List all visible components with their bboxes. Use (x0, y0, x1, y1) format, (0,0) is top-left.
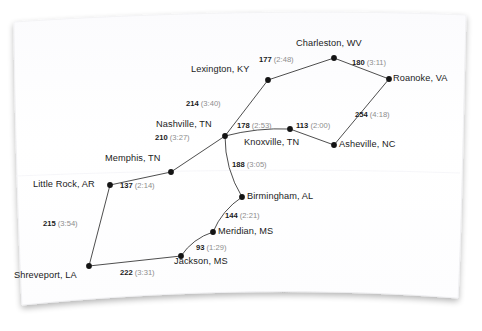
city-label-meridian: Meridian, MS (218, 226, 273, 236)
node-nashville (222, 133, 228, 139)
edge-miles: 144 (225, 211, 238, 220)
city-label-charleston: Charleston, WV (296, 38, 362, 48)
edge-time: (3:40) (201, 99, 221, 108)
edge-miles: 222 (120, 268, 133, 277)
city-label-asheville: Asheville, NC (339, 139, 395, 149)
city-label-birmingham: Birmingham, AL (247, 191, 313, 201)
edge-label-shreveport-jackson: 222 (3:31) (120, 268, 155, 277)
edge-miles: 215 (43, 219, 56, 228)
node-shreveport (86, 263, 92, 269)
edge-time: (3:27) (170, 133, 190, 142)
node-littlerock (107, 182, 113, 188)
edge-littlerock-shreveport (89, 185, 110, 266)
city-label-knoxville: Knoxville, TN (244, 137, 299, 147)
edge-label-lexington-charleston: 177 (2:48) (259, 55, 294, 64)
city-label-littlerock: Little Rock, AR (33, 179, 95, 189)
edge-miles: 210 (155, 133, 168, 142)
edge-time: (4:18) (370, 110, 390, 119)
edge-miles: 177 (259, 55, 272, 64)
city-label-jackson: Jackson, MS (174, 256, 228, 266)
edge-time: (3:31) (135, 268, 155, 277)
edge-label-littlerock-shreveport: 215 (3:54) (43, 219, 78, 228)
node-roanoke (386, 76, 392, 82)
edge-label-meridian-jackson: 93 (1:29) (196, 243, 226, 252)
edge-label-birmingham-meridian: 144 (2:21) (225, 211, 260, 220)
node-asheville (331, 142, 337, 148)
edge-time: (3:54) (58, 219, 78, 228)
edge-label-nashville-lexington: 214 (3:40) (186, 99, 221, 108)
edge-time: (2:00) (310, 121, 330, 130)
city-label-shreveport: Shreveport, LA (14, 270, 77, 280)
edge-time: (2:21) (240, 211, 260, 220)
edge-miles: 93 (196, 243, 204, 252)
edge-miles: 113 (296, 121, 308, 130)
city-label-nashville: Nashville, TN (156, 119, 212, 129)
edge-miles: 137 (120, 181, 133, 190)
edge-time: (3:05) (247, 160, 267, 169)
city-label-memphis: Memphis, TN (105, 153, 161, 163)
node-knoxville (287, 126, 293, 132)
edge-label-charleston-roanoke: 180 (3:11) (352, 58, 386, 67)
edge-label-littlerock-memphis: 137 (2:14) (120, 181, 155, 190)
node-charleston (331, 55, 337, 61)
edge-miles: 178 (237, 121, 250, 130)
edge-miles: 188 (232, 160, 245, 169)
diagram-stage: Charleston, WVRoanoke, VALexington, KYNa… (0, 0, 482, 331)
edge-label-nashville-birmingham: 188 (3:05) (232, 160, 267, 169)
edge-miles: 254 (355, 110, 368, 119)
edge-label-nashville-knoxville: 178 (2:53) (237, 121, 272, 130)
edge-miles: 214 (186, 99, 199, 108)
node-meridian (210, 229, 216, 235)
edge-time: (2:53) (252, 121, 272, 130)
edge-miles: 180 (352, 58, 365, 67)
node-memphis (168, 169, 174, 175)
edge-label-knoxville-asheville: 113 (2:00) (296, 121, 330, 130)
city-label-roanoke: Roanoke, VA (393, 73, 448, 83)
edge-time: (3:11) (367, 58, 386, 67)
edge-shreveport-jackson (89, 256, 181, 266)
edge-time: (2:14) (135, 181, 155, 190)
edge-label-roanoke-asheville: 254 (4:18) (355, 110, 390, 119)
edge-time: (1:29) (207, 243, 227, 252)
edge-time: (2:48) (274, 55, 294, 64)
node-birmingham (239, 194, 245, 200)
edge-label-memphis-nashville: 210 (3:27) (155, 133, 190, 142)
node-lexington (265, 77, 271, 83)
city-label-lexington: Lexington, KY (191, 64, 250, 74)
